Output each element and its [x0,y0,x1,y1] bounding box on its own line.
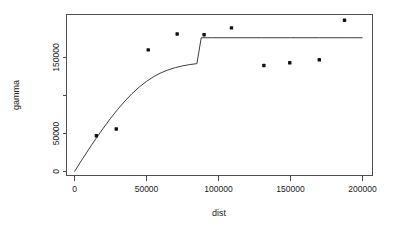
x-tick-label-150000: 150000 [276,184,305,194]
y-axis-title: gamma [11,80,21,110]
x-axis-title: dist [212,208,227,218]
x-tick-label-200000: 200000 [348,184,377,194]
data-point [115,127,118,130]
y-tick-label-0: 0 [51,169,61,174]
data-point [175,32,178,35]
y-tick-label-50000: 50000 [51,121,61,145]
x-tick-label-50000: 50000 [135,184,159,194]
x-tick-label-100000: 100000 [204,184,233,194]
data-point [202,33,205,36]
plot-background [0,0,398,235]
data-point [288,61,291,64]
data-point [95,134,98,137]
data-point [343,19,346,22]
data-point [147,48,150,51]
y-tick-label-150000: 150000 [51,43,61,72]
data-point [230,26,233,29]
data-point [262,64,265,67]
x-tick-label-0: 0 [72,184,77,194]
data-point [318,58,321,61]
variogram-plot: 0 50000 150000 0 50000 100000 150000 200… [0,0,398,235]
plot-canvas: 0 50000 150000 0 50000 100000 150000 200… [0,0,398,235]
